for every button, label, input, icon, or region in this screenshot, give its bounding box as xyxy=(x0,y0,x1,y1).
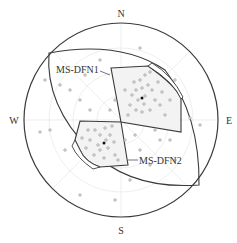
stereonet-diagram: MS-DFN1 MS-DFN2 N S W E xyxy=(0,0,237,243)
compass-west: W xyxy=(9,115,19,126)
compass-north: N xyxy=(117,8,124,19)
mean-pole-ms-dfn2 xyxy=(103,142,106,145)
leader-ms-dfn1 xyxy=(100,71,110,75)
mean-pole-ms-dfn1 xyxy=(141,97,144,100)
compass-south: S xyxy=(118,225,124,236)
compass-east: E xyxy=(226,115,232,126)
label-ms-dfn1: MS-DFN1 xyxy=(56,64,99,75)
label-ms-dfn2: MS-DFN2 xyxy=(139,155,182,166)
